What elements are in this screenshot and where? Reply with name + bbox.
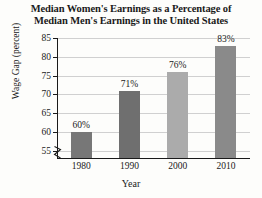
y-axis-label: Wage Gap (percent) xyxy=(11,1,21,121)
bar-value-label: 60% xyxy=(72,120,89,130)
chart-container: Median Women's Earnings as a Percentage … xyxy=(0,0,262,198)
y-axis-tick-label: 55 xyxy=(42,146,52,156)
y-axis-tick-label: 70 xyxy=(42,89,52,99)
bar: 60% xyxy=(71,132,92,158)
bar-value-label: 76% xyxy=(169,60,186,70)
bar: 71% xyxy=(119,91,140,159)
axis-break-icon xyxy=(53,146,62,159)
chart-title: Median Women's Earnings as a Percentage … xyxy=(0,3,262,26)
y-axis-tick-label: 60 xyxy=(42,127,52,137)
bar-value-label: 83% xyxy=(217,34,234,44)
x-axis-line xyxy=(57,158,250,159)
x-axis-tick-label: 2010 xyxy=(216,161,235,171)
x-axis-tick-label: 1980 xyxy=(72,161,91,171)
x-axis-label: Year xyxy=(0,178,262,189)
x-axis-tick-label: 1990 xyxy=(120,161,139,171)
bar: 76% xyxy=(167,72,188,158)
plot-area: 55606570758085 60%71%76%83% 198019902000… xyxy=(57,38,250,158)
x-axis-tick-label: 2000 xyxy=(168,161,187,171)
y-axis-tick-label: 80 xyxy=(42,52,52,62)
y-axis-tick-label: 75 xyxy=(42,71,52,81)
bar: 83% xyxy=(215,46,236,159)
chart-title-line-1: Median Women's Earnings as a Percentage … xyxy=(0,3,262,15)
y-axis-tick-label: 85 xyxy=(42,33,52,43)
y-axis-tick-label: 65 xyxy=(42,108,52,118)
chart-title-line-2: Median Men's Earnings in the United Stat… xyxy=(0,15,262,27)
bar-value-label: 71% xyxy=(121,79,138,89)
